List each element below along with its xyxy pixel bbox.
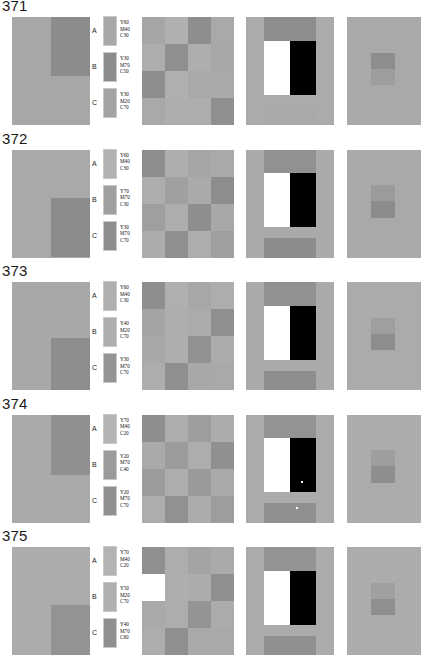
legend-value-line: M70 (120, 495, 130, 502)
checkerboard-cell (211, 336, 234, 363)
checkerboard-cell (211, 574, 234, 601)
legend-item: AY60M40C30 (92, 281, 140, 313)
checkerboard-cell (142, 469, 165, 496)
quadrant-field-panel (12, 415, 90, 523)
checkerboard-cell (188, 469, 211, 496)
checkerboard-panel (142, 150, 234, 258)
checkerboard-cell (142, 204, 165, 231)
checkerboard-cell (188, 442, 211, 469)
legend-cmyk-values: Y20M70C40 (120, 453, 130, 473)
legend-value-line: Y70 (120, 417, 130, 424)
checkerboard-cell (211, 628, 234, 655)
white-bar (264, 41, 290, 95)
checkerboard-cell (188, 547, 211, 574)
legend-color-swatch (103, 317, 117, 347)
legend-value-line: Y60 (120, 152, 130, 159)
legend-letter-label: B (92, 328, 97, 336)
checkerboard-cell (142, 601, 165, 628)
white-bar (264, 571, 290, 625)
legend-cmyk-values: Y30M70C70 (120, 356, 130, 376)
legend-letter-label: C (92, 629, 97, 637)
checkerboard-cell (165, 150, 188, 177)
checkerboard-cell (142, 282, 165, 309)
legend-color-swatch (103, 486, 117, 516)
checkerboard-panel (142, 17, 234, 125)
checkerboard-cell (142, 363, 165, 390)
bar-field-panel (246, 415, 334, 523)
row-number-label: 372 (2, 131, 28, 146)
checkerboard-cell (188, 363, 211, 390)
legend-value-line: C60 (120, 634, 130, 641)
legend-cmyk-values: Y50M20C70 (120, 585, 130, 605)
checkerboard-cell (142, 574, 165, 601)
chart-row: 375AY70M40C20BY50M20C70CY40M70C60 (0, 530, 429, 663)
legend-value-line: C30 (120, 32, 130, 39)
top-band (264, 150, 315, 175)
legend-color-swatch (103, 450, 117, 480)
checkerboard-cell (165, 469, 188, 496)
checkerboard-cell (211, 204, 234, 231)
legend-value-line: C30 (120, 297, 130, 304)
legend-item: AY70M40C20 (92, 414, 140, 446)
checkerboard-cell (142, 442, 165, 469)
legend-cmyk-values: Y30M70C70 (120, 224, 130, 244)
legend-color-swatch (103, 582, 117, 612)
checkerboard-cell (188, 231, 211, 258)
legend-value-line: M70 (120, 363, 130, 370)
contrast-block (51, 338, 90, 390)
legend-value-line: C70 (120, 369, 130, 376)
legend-letter-label: A (92, 557, 97, 565)
legend-letter-label: C (92, 497, 97, 505)
checkerboard-cell (188, 336, 211, 363)
checkerboard-cell (165, 231, 188, 258)
legend-color-swatch (103, 149, 117, 179)
legend-cmyk-values: Y40M70C60 (120, 621, 130, 641)
checkerboard-cell (211, 309, 234, 336)
checkerboard-cell (142, 177, 165, 204)
legend-value-line: C20 (120, 562, 130, 569)
bottom-band (264, 371, 315, 390)
legend-value-line: C40 (120, 466, 130, 473)
legend-value-line: Y60 (120, 284, 130, 291)
bottom-band (264, 106, 315, 125)
checkerboard-cell (188, 17, 211, 44)
checkerboard-cell (211, 496, 234, 523)
legend-value-line: C50 (120, 68, 130, 75)
bottom-band (264, 238, 315, 257)
legend-value-line: M40 (120, 423, 130, 430)
center-patch-panel (347, 415, 421, 523)
checkerboard-cell (188, 71, 211, 98)
legend-letter-label: A (92, 292, 97, 300)
black-bar (290, 438, 316, 492)
legend-cmyk-values: Y70M70C30 (120, 188, 130, 208)
legend-value-line: Y50 (120, 585, 130, 592)
checkerboard-cell (142, 336, 165, 363)
checkerboard-cell (142, 98, 165, 125)
bar-field-panel (246, 17, 334, 125)
legend-color-swatch (103, 546, 117, 576)
checkerboard-cell (211, 231, 234, 258)
legend-item: CY30M20C70 (92, 88, 140, 120)
checkerboard-cell (165, 71, 188, 98)
legend-letter-label: B (92, 593, 97, 601)
color-legend: AY70M40C20BY50M20C70CY40M70C60 (92, 544, 140, 656)
patch-bottom-half (371, 201, 395, 217)
legend-value-line: Y30 (120, 55, 130, 62)
checkerboard-cell (211, 98, 234, 125)
legend-item: BY40M20C70 (92, 317, 140, 349)
chart-row: 374AY70M40C20BY20M70C40CY20M70C70 (0, 398, 429, 531)
checkerboard-panel (142, 547, 234, 655)
quadrant-field-panel (12, 17, 90, 125)
checkerboard-cell (211, 442, 234, 469)
checkerboard-cell (211, 17, 234, 44)
patch-top-half (371, 450, 395, 466)
legend-value-line: M40 (120, 158, 130, 165)
legend-value-line: M70 (120, 628, 130, 635)
quadrant-field-panel (12, 150, 90, 258)
checkerboard-cell (142, 547, 165, 574)
legend-value-line: Y40 (120, 621, 130, 628)
legend-color-swatch (103, 414, 117, 444)
legend-item: BY70M70C30 (92, 185, 140, 217)
checkerboard-cell (165, 601, 188, 628)
legend-value-line: C30 (120, 201, 130, 208)
